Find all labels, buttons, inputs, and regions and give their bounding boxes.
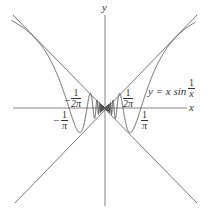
neg-half-den: 2π xyxy=(71,99,81,109)
function-label-text: y = x sin xyxy=(148,85,186,97)
function-label: y = x sin xyxy=(148,85,186,97)
neg-pi-sign: − xyxy=(53,114,59,126)
label-neg-1-over-pi: 1 π xyxy=(61,110,68,131)
function-fraction-den: x xyxy=(188,89,195,99)
neg-pi-den: π xyxy=(61,121,68,131)
plot-area: y x y = x sin 1 x 1 2π − 1 2π 1 π − 1 π xyxy=(0,0,212,213)
curve-x-sin-inv-x xyxy=(11,20,195,132)
x-axis-label: x xyxy=(189,101,194,113)
pos-pi-den: π xyxy=(141,121,148,131)
label-pos-1-over-pi: 1 π xyxy=(141,110,148,131)
y-axis-label: y xyxy=(102,1,107,13)
function-label-fraction: 1 x xyxy=(188,78,195,99)
label-pos-1-over-2pi: 1 2π xyxy=(123,88,133,109)
label-neg-1-over-2pi: 1 2π xyxy=(71,88,81,109)
chart-svg xyxy=(0,0,212,213)
pos-half-den: 2π xyxy=(123,99,133,109)
neg-half-sign: − xyxy=(64,94,70,106)
